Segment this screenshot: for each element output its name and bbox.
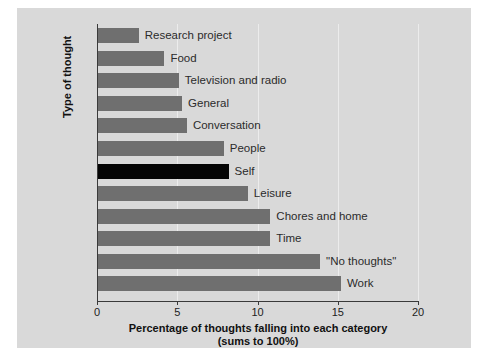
bar xyxy=(97,164,229,179)
x-axis-title-line2: (sums to 100%) xyxy=(97,335,419,348)
bar-row: Work xyxy=(97,276,418,291)
bar-label: Research project xyxy=(139,28,232,43)
bar-row: Conversation xyxy=(97,118,418,133)
chart-figure: Type of thought Research projectFoodTele… xyxy=(17,8,471,348)
bar-label: Food xyxy=(164,51,196,66)
bar-row: Time xyxy=(97,231,418,246)
x-tick-20 xyxy=(418,301,419,305)
bar-row: Chores and home xyxy=(97,209,418,224)
x-tick-label: 0 xyxy=(94,306,100,318)
bar xyxy=(97,118,187,133)
bar-label: Leisure xyxy=(248,186,292,201)
bar-row: People xyxy=(97,141,418,156)
bar xyxy=(97,51,164,66)
bar-label: Television and radio xyxy=(179,73,287,88)
bar xyxy=(97,231,270,246)
x-tick-0 xyxy=(97,301,98,305)
x-tick-label: 10 xyxy=(251,306,263,318)
bar xyxy=(97,276,341,291)
x-tick-10 xyxy=(258,301,259,305)
x-axis-title-line1: Percentage of thoughts falling into each… xyxy=(97,322,419,335)
x-tick-label: 20 xyxy=(412,306,424,318)
plot-area: Research projectFoodTelevision and radio… xyxy=(97,24,418,301)
bar-label: People xyxy=(224,141,266,156)
bar-label: Chores and home xyxy=(270,209,367,224)
bar-row: General xyxy=(97,96,418,111)
bar-label: Time xyxy=(270,231,301,246)
bar-label: Self xyxy=(229,164,255,179)
x-tick-5 xyxy=(177,301,178,305)
bar-row: Self xyxy=(97,164,418,179)
bar xyxy=(97,209,270,224)
bar-label: Conversation xyxy=(187,118,261,133)
y-axis-line xyxy=(97,24,98,302)
x-tick-label: 5 xyxy=(174,306,180,318)
bar-row: Research project xyxy=(97,28,418,43)
bar-label: Work xyxy=(341,276,374,291)
bar-label: "No thoughts" xyxy=(320,254,396,269)
bar-row: "No thoughts" xyxy=(97,254,418,269)
bar-row: Leisure xyxy=(97,186,418,201)
bar xyxy=(97,28,139,43)
x-tick-label: 15 xyxy=(332,306,344,318)
bar-row: Food xyxy=(97,51,418,66)
gridline-x-20 xyxy=(418,24,419,301)
bar-label: General xyxy=(182,96,229,111)
bar-row: Television and radio xyxy=(97,73,418,88)
bar xyxy=(97,96,182,111)
bar xyxy=(97,73,179,88)
bar xyxy=(97,141,224,156)
x-axis-title: Percentage of thoughts falling into each… xyxy=(97,322,419,348)
y-axis-title: Type of thought xyxy=(61,36,73,118)
x-tick-15 xyxy=(338,301,339,305)
bar xyxy=(97,186,248,201)
bar xyxy=(97,254,320,269)
